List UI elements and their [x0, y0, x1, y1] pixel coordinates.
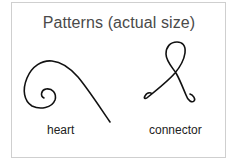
heart-pattern-icon	[24, 61, 110, 122]
connector-pattern-icon	[144, 42, 194, 102]
pattern-label-heart: heart	[47, 123, 74, 137]
pattern-label-connector: connector	[149, 123, 202, 137]
pattern-drawings	[0, 0, 238, 166]
